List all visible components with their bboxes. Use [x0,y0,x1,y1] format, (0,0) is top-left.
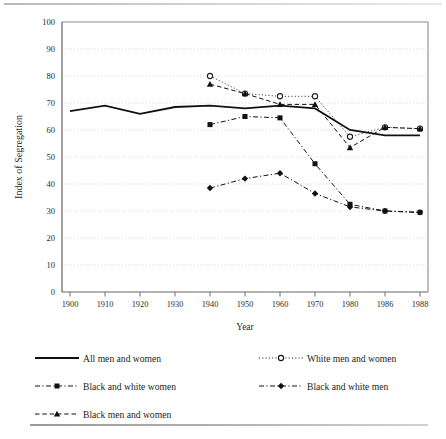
data-point-1980 [347,144,353,150]
data-point-1950 [243,114,248,119]
x-tick-label-1910: 1910 [97,300,114,309]
legend-symbol-none [34,352,80,364]
y-tick-label-20: 20 [47,233,56,243]
data-point-1980 [347,134,352,139]
y-tick-label-30: 30 [47,206,56,216]
legend-all-men-and-women: All men and women [34,352,161,364]
y-tick-label-100: 100 [42,17,55,27]
legend-symbol-filled-square [34,380,80,392]
series-black-men-and-women [207,81,423,150]
legend-label: All men and women [83,353,161,364]
x-tick-label-1930: 1930 [167,300,184,309]
legend-marker [278,383,284,389]
y-tick-label-40: 40 [47,179,56,189]
data-point-1970 [312,190,318,196]
legend-symbol-filled-diamond [258,380,304,392]
y-tick-label-0: 0 [51,287,55,297]
data-point-1960 [277,170,283,176]
y-tick-label-90: 90 [47,44,56,54]
chart-legend: All men and womenWhite men and womenBlac… [0,352,446,422]
data-point-1960 [278,115,283,120]
x-tick-label-1986: 1986 [377,300,394,309]
legend-label: Black men and women [83,409,171,420]
data-point-1960 [277,94,282,99]
data-point-1940 [207,73,212,78]
y-tick-label-50: 50 [47,152,56,162]
legend-label: Black and white women [83,381,176,392]
y-axis-title: Index of Segregation [13,115,24,199]
y-tick-label-60: 60 [47,125,56,135]
x-axis-title: Year [236,322,254,332]
legend-symbol-filled-triangle [34,408,80,420]
y-tick-label-10: 10 [47,260,56,270]
series-all-men-and-women [70,106,420,136]
x-tick-label-1920: 1920 [132,300,149,309]
series-black-and-white-women [208,114,423,215]
legend-marker [278,355,283,360]
data-point-1950 [242,175,248,181]
data-point-1940 [207,185,213,191]
data-point-1970 [312,94,317,99]
x-tick-label-1970: 1970 [307,300,324,309]
data-point-1940 [208,122,213,127]
x-tick-label-1950: 1950 [237,300,254,309]
data-point-1970 [313,161,318,166]
chart-canvas: 0102030405060708090100190019101920193019… [0,0,446,352]
legend-black-men-and-women: Black men and women [34,408,171,420]
legend-label: White men and women [307,353,396,364]
y-tick-label-70: 70 [47,98,56,108]
data-point-1940 [207,81,213,87]
x-tick-label-1940: 1940 [202,300,219,309]
legend-white-men-and-women: White men and women [258,352,396,364]
legend-black-and-white-men: Black and white men [258,380,388,392]
x-tick-label-1960: 1960 [272,300,289,309]
legend-marker [55,384,60,389]
series-black-and-white-men [207,170,423,216]
series-line [70,106,420,136]
x-tick-label-1900: 1900 [62,300,79,309]
legend-symbol-open-circle [258,352,304,364]
y-tick-label-80: 80 [47,71,56,81]
legend-black-and-white-women: Black and white women [34,380,176,392]
x-tick-label-1988: 1988 [412,300,429,309]
legend-label: Black and white men [307,381,388,392]
x-tick-label-1980: 1980 [342,300,359,309]
